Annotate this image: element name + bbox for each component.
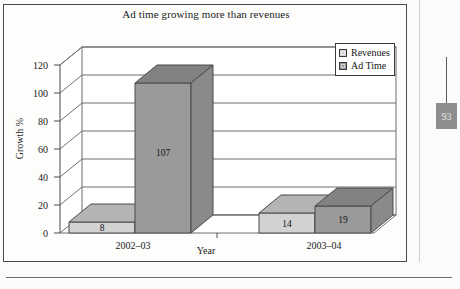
chart-figure-frame: Ad time growing more than revenues <box>3 4 407 262</box>
legend-swatch-revenues-icon <box>339 49 347 57</box>
bar-value-revenues-2002-03: 8 <box>100 223 105 233</box>
y-tick-label-20: 20 <box>14 200 48 211</box>
chart-legend: Revenues Ad Time <box>335 43 395 76</box>
bar-adtime-2002-03 <box>135 65 213 233</box>
y-axis-title: Growth % <box>14 104 25 174</box>
y-tick-label-0: 0 <box>14 228 48 239</box>
page-right-rule <box>419 0 420 262</box>
footer-text <box>0 280 460 289</box>
legend-label-revenues: Revenues <box>351 47 390 58</box>
y-axis-ticks <box>54 65 60 233</box>
footer-rule <box>6 277 452 278</box>
bar-value-revenues-2003-04: 14 <box>282 219 292 229</box>
bar-value-adtime-2002-03: 107 <box>156 148 170 158</box>
legend-item-ad-time: Ad Time <box>339 59 390 72</box>
bar-value-adtime-2003-04: 19 <box>338 215 348 225</box>
y-tick-label-120: 120 <box>14 60 48 71</box>
legend-label-ad-time: Ad Time <box>351 60 386 71</box>
x-axis-title: Year <box>4 245 408 256</box>
legend-swatch-ad-time-icon <box>339 62 347 70</box>
page-marker-stem <box>446 57 447 104</box>
legend-item-revenues: Revenues <box>339 46 390 59</box>
page-number-marker: 93 <box>436 103 457 129</box>
y-tick-label-100: 100 <box>14 88 48 99</box>
